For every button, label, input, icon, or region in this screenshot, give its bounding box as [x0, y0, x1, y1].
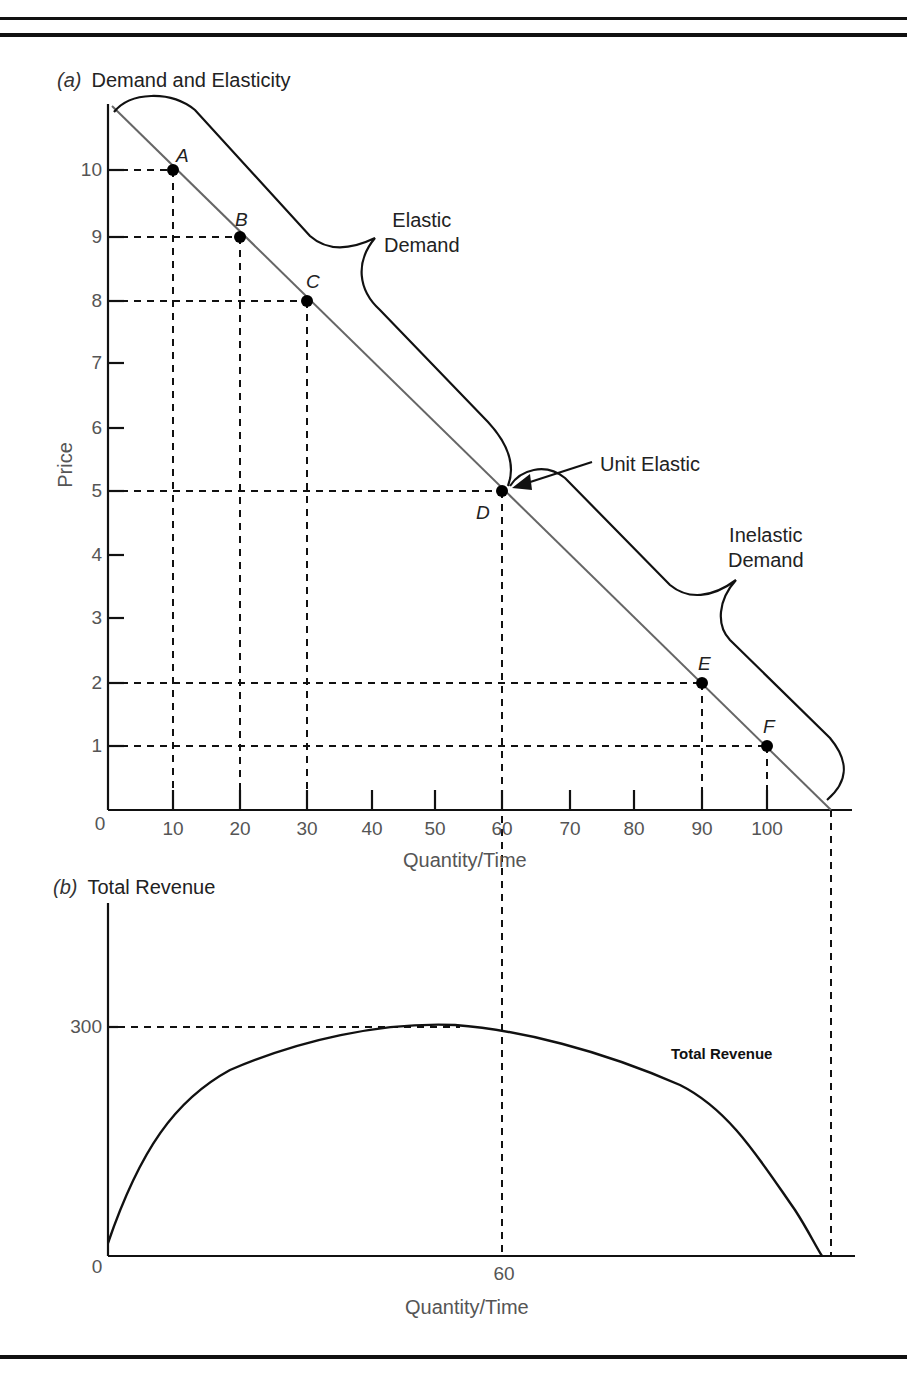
panel-a-y-ticks [108, 170, 124, 746]
x-axis-title-a: Quantity/Time [403, 850, 527, 870]
y-tick-3: 3 [62, 608, 102, 627]
x-tick-60-b: 60 [479, 1264, 529, 1283]
point-label-e: E [698, 654, 711, 673]
x-origin-a: 0 [75, 814, 125, 833]
x-axis-title-b: Quantity/Time [405, 1297, 529, 1317]
point-label-f: F [763, 717, 775, 736]
elastic-demand-line2: Demand [384, 235, 460, 255]
y-tick-1: 1 [62, 736, 102, 755]
x-tick-20: 20 [215, 819, 265, 838]
panel-a-title-text: Demand and Elasticity [91, 69, 290, 91]
total-revenue-curve-label: Total Revenue [671, 1046, 772, 1061]
panel-b-axes [108, 903, 855, 1256]
x-tick-50: 50 [410, 819, 460, 838]
panel-a-x-ticks [173, 790, 767, 810]
x-origin-b: 0 [72, 1257, 122, 1276]
y-tick-6: 6 [62, 418, 102, 437]
chart-canvas [0, 0, 907, 1380]
elastic-demand-label: Elastic Demand [384, 210, 460, 255]
y-tick-7: 7 [62, 353, 102, 372]
x-tick-70: 70 [545, 819, 595, 838]
inelastic-demand-line2: Demand [728, 550, 804, 570]
y-tick-10: 10 [62, 160, 102, 179]
x-tick-10: 10 [148, 819, 198, 838]
panel-a-title: (a)Demand and Elasticity [57, 70, 290, 90]
panel-a-tag: (a) [57, 69, 81, 91]
unit-elastic-label: Unit Elastic [600, 454, 700, 474]
panel-b-title-text: Total Revenue [87, 876, 215, 898]
point-label-b: B [235, 210, 248, 229]
x-tick-30: 30 [282, 819, 332, 838]
inelastic-brace [510, 469, 844, 800]
y-tick-2: 2 [62, 673, 102, 692]
x-tick-100: 100 [742, 819, 792, 838]
panel-b-title: (b)Total Revenue [53, 877, 215, 897]
demand-curve [112, 106, 831, 810]
y-tick-4: 4 [62, 545, 102, 564]
panel-b-tag: (b) [53, 876, 77, 898]
point-label-d: D [476, 503, 490, 522]
x-tick-60: 60 [477, 819, 527, 838]
panel-a-axes [108, 104, 852, 810]
y-axis-title-price: Price [55, 442, 75, 488]
panel-a-guides [108, 170, 831, 1255]
inelastic-demand-line1: Inelastic [728, 525, 804, 545]
x-tick-40: 40 [347, 819, 397, 838]
y-tick-300: 300 [62, 1017, 102, 1036]
y-tick-8: 8 [62, 291, 102, 310]
point-label-c: C [306, 272, 320, 291]
x-tick-90: 90 [677, 819, 727, 838]
unit-elastic-arrow [512, 462, 592, 490]
inelastic-demand-label: Inelastic Demand [728, 525, 804, 570]
y-tick-9: 9 [62, 227, 102, 246]
x-tick-80: 80 [609, 819, 659, 838]
point-label-a: A [176, 146, 189, 165]
elastic-demand-line1: Elastic [384, 210, 460, 230]
